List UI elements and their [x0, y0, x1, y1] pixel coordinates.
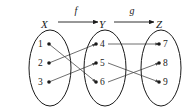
- element-dot: [47, 42, 51, 46]
- set-ellipse-X: [29, 30, 71, 106]
- element-label: 4: [100, 39, 105, 49]
- function-arrow-f: f: [58, 5, 98, 22]
- set-labels: XYZ: [40, 18, 163, 30]
- element-dot: [47, 80, 51, 84]
- set-label-Y: Y: [99, 18, 107, 30]
- mapping-line: [49, 44, 96, 63]
- diagram-canvas: f g 123456789 XYZ: [0, 0, 183, 110]
- function-label-f: f: [75, 5, 79, 16]
- element-dot: [157, 42, 161, 46]
- element-dot: [47, 61, 51, 65]
- mapping-line: [49, 44, 96, 82]
- element-label: 2: [38, 58, 43, 68]
- element-dot: [157, 61, 161, 65]
- set-label-Z: Z: [156, 18, 163, 30]
- element-label: 8: [163, 58, 168, 68]
- element-dot: [157, 80, 161, 84]
- element-dot: [94, 80, 98, 84]
- element-label: 1: [38, 39, 43, 49]
- function-label-g: g: [130, 5, 135, 16]
- set-label-X: X: [40, 18, 49, 30]
- element-dot: [94, 61, 98, 65]
- element-label: 3: [38, 77, 43, 87]
- element-label: 6: [100, 77, 105, 87]
- element-label: 9: [163, 77, 168, 87]
- element-label: 5: [100, 58, 105, 68]
- set-elements: 123456789: [38, 39, 168, 87]
- set-ellipse-Y: [84, 30, 126, 106]
- element-dot: [94, 42, 98, 46]
- set-ellipses: [29, 30, 181, 106]
- element-label: 7: [163, 39, 168, 49]
- function-composition-diagram: f g 123456789 XYZ: [0, 0, 183, 110]
- set-ellipse-Z: [141, 30, 181, 106]
- function-arrow-g: g: [114, 5, 154, 22]
- mapping-line: [49, 63, 96, 82]
